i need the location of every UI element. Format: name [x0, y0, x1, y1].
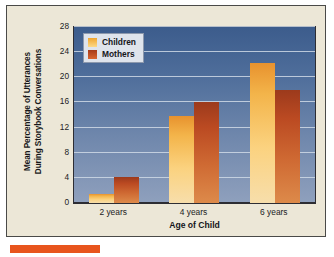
chart-legend: Children Mothers: [83, 33, 144, 63]
legend-label-children: Children: [102, 37, 136, 47]
legend-label-mothers: Mothers: [102, 49, 135, 59]
y-axis-tick-label: 4: [64, 172, 69, 182]
legend-swatch-children-icon: [88, 38, 97, 47]
bar-children-4-years[interactable]: [169, 116, 194, 203]
y-axis-tick-label: 28: [60, 21, 69, 31]
x-axis-tick-labels: 2 years4 years6 years: [73, 207, 316, 219]
x-axis-tick-label: 4 years: [180, 207, 207, 217]
y-axis-tick-label: 8: [64, 147, 69, 157]
bar-group: [235, 27, 315, 203]
chart-figure: Mean Percentage of Utterances During Sto…: [6, 5, 326, 237]
plot-area: Children Mothers: [73, 26, 316, 204]
bar-mothers-6-years[interactable]: [275, 90, 300, 203]
y-axis-tick-label: 24: [60, 46, 69, 56]
bar-children-2-years[interactable]: [89, 194, 114, 203]
y-axis-title-line1: Mean Percentage of Utterances: [24, 51, 33, 170]
y-axis-title-line2: During Storybook Conversations: [34, 48, 43, 173]
x-axis-title: Age of Child: [73, 220, 316, 230]
legend-item-children: Children: [88, 37, 136, 47]
x-axis-tick-label: 6 years: [260, 207, 287, 217]
legend-swatch-mothers-icon: [88, 50, 97, 59]
accent-bar: [10, 245, 100, 253]
bar-children-6-years[interactable]: [250, 63, 275, 203]
y-axis-tick-label: 0: [64, 197, 69, 207]
y-axis-title: Mean Percentage of Utterances During Sto…: [17, 18, 51, 204]
bar-group: [154, 27, 234, 203]
y-axis-tick-labels: 0481216202428: [49, 18, 69, 204]
y-axis-tick-label: 20: [60, 71, 69, 81]
bar-mothers-4-years[interactable]: [194, 102, 219, 203]
x-axis-tick-label: 2 years: [99, 207, 126, 217]
y-axis-tick-label: 12: [60, 122, 69, 132]
bar-mothers-2-years[interactable]: [114, 177, 139, 203]
y-axis-tick-label: 16: [60, 96, 69, 106]
legend-item-mothers: Mothers: [88, 49, 136, 59]
